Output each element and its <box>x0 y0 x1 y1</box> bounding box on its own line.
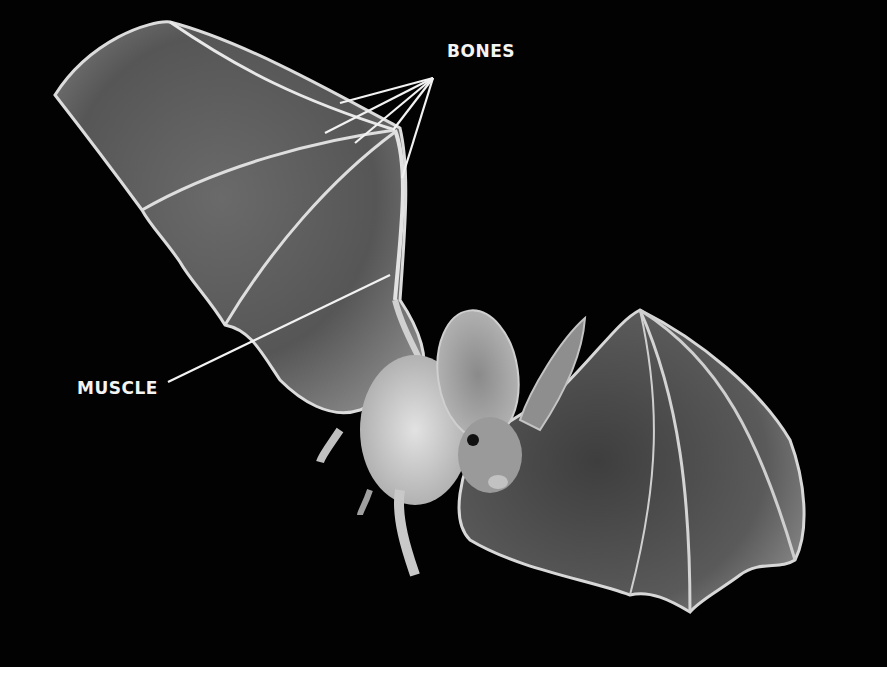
bat-photograph: BONES MUSCLE <box>0 0 887 667</box>
bones-label: BONES <box>447 41 515 61</box>
left-wing <box>55 22 424 413</box>
bat-illustration <box>0 0 887 667</box>
muscle-label: MUSCLE <box>77 378 158 398</box>
